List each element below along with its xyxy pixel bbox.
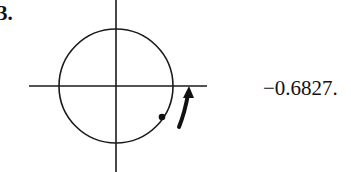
answer-value: −0.6827. xyxy=(263,78,338,99)
counterclockwise-arrow-icon xyxy=(179,86,194,127)
point-dot xyxy=(159,114,166,121)
